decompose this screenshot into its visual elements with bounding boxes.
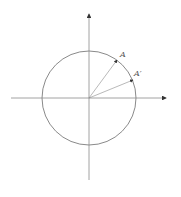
- rotation-diagram: A A′: [0, 0, 181, 197]
- label-a-prime: A′: [133, 69, 142, 78]
- label-a: A: [119, 50, 126, 59]
